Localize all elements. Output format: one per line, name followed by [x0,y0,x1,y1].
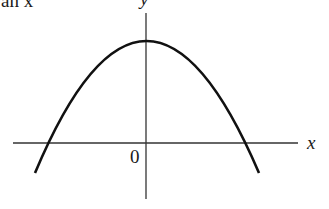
y-axis-label: y [140,0,148,8]
x-axis-label: x [307,133,315,152]
graph-canvas [0,0,329,209]
cut-off-text: an x [1,0,33,10]
parabola-curve [35,41,259,173]
origin-label: 0 [130,147,140,166]
parabola-figure: an x y x 0 [0,0,329,209]
